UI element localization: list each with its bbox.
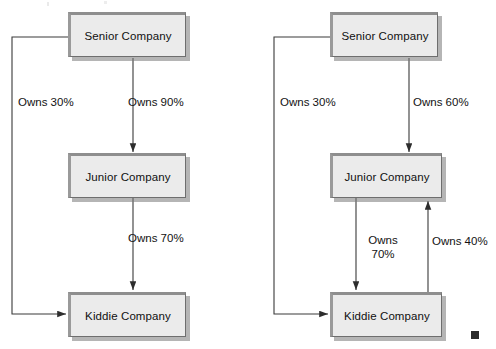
right-edge-label-owns-60: Owns 60% [413,95,469,109]
right-edge-label-owns-30: Owns 30% [280,95,336,109]
node-label: Junior Company [344,171,429,183]
node-label: Kiddie Company [85,310,171,322]
scan-artifact [47,2,49,6]
right-edge-label-owns-40: Owns 40% [432,234,488,248]
owns-70-line-2: 70% [371,248,394,260]
right-node-kiddie-company[interactable]: Kiddie Company [330,292,442,337]
left-edge-label-owns-70: Owns 70% [128,231,184,245]
node-label: Senior Company [84,30,171,42]
left-node-kiddie-company[interactable]: Kiddie Company [68,292,186,337]
right-node-senior-company[interactable]: Senior Company [330,12,438,57]
left-edge-label-owns-90: Owns 90% [128,95,184,109]
node-label: Kiddie Company [344,310,430,322]
node-label: Junior Company [85,171,170,183]
right-node-junior-company[interactable]: Junior Company [330,153,442,198]
scan-artifact [104,1,107,4]
right-edge-senior-to-kiddie [274,37,330,314]
end-of-figure-square-icon [471,331,479,339]
figure-canvas: Senior Company Junior Company Kiddie Com… [0,0,496,349]
left-node-junior-company[interactable]: Junior Company [68,153,186,198]
left-edge-label-owns-30: Owns 30% [18,95,74,109]
node-label: Senior Company [341,30,428,42]
left-node-senior-company[interactable]: Senior Company [68,12,186,57]
right-edge-label-owns-70: Owns 70% [360,233,406,261]
left-edge-senior-to-kiddie [12,37,68,314]
owns-70-line-1: Owns [368,234,397,246]
